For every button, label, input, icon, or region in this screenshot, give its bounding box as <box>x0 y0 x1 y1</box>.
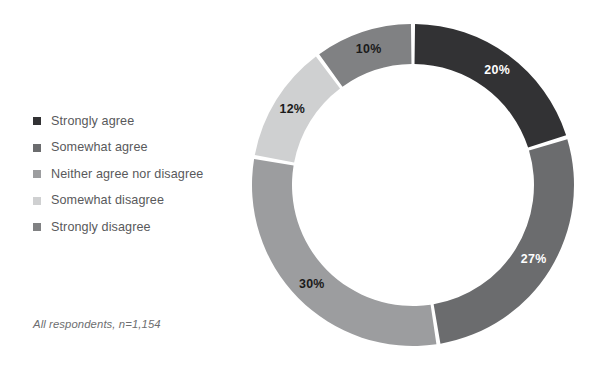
donut-slice-label: 10% <box>356 42 382 56</box>
legend-swatch-icon <box>33 223 41 231</box>
legend-swatch-icon <box>33 170 41 178</box>
legend-item-somewhat-agree[interactable]: Somewhat agree <box>33 135 248 162</box>
donut-slice[interactable] <box>434 139 574 343</box>
chart-legend: Strongly agree Somewhat agree Neither ag… <box>33 108 248 241</box>
donut-slice-label: 20% <box>484 63 510 77</box>
legend-swatch-icon <box>33 144 41 152</box>
donut-slice-label: 27% <box>521 252 547 266</box>
donut-slice[interactable] <box>252 159 436 346</box>
donut-svg: 20%27%30%12%10% <box>244 16 582 354</box>
legend-item-label: Strongly disagree <box>51 221 151 234</box>
legend-item-label: Neither agree nor disagree <box>51 168 203 181</box>
legend-swatch-icon <box>33 117 41 125</box>
donut-slices <box>252 24 574 346</box>
donut-slice-label: 12% <box>279 102 305 116</box>
legend-item-label: Strongly agree <box>51 115 134 128</box>
chart-footnote: All respondents, n=1,154 <box>33 318 161 330</box>
donut-slice-label: 30% <box>299 277 325 291</box>
donut-plot-area: 20%27%30%12%10% <box>244 16 582 354</box>
legend-item-strongly-disagree[interactable]: Strongly disagree <box>33 214 248 241</box>
donut-chart-figure: Strongly agree Somewhat agree Neither ag… <box>0 0 597 376</box>
legend-item-label: Somewhat agree <box>51 141 148 154</box>
donut-slice[interactable] <box>415 24 567 148</box>
legend-item-neither-agree-nor-disagree[interactable]: Neither agree nor disagree <box>33 161 248 188</box>
legend-swatch-icon <box>33 197 41 205</box>
legend-item-somewhat-disagree[interactable]: Somewhat disagree <box>33 188 248 215</box>
legend-item-label: Somewhat disagree <box>51 194 164 207</box>
legend-item-strongly-agree[interactable]: Strongly agree <box>33 108 248 135</box>
